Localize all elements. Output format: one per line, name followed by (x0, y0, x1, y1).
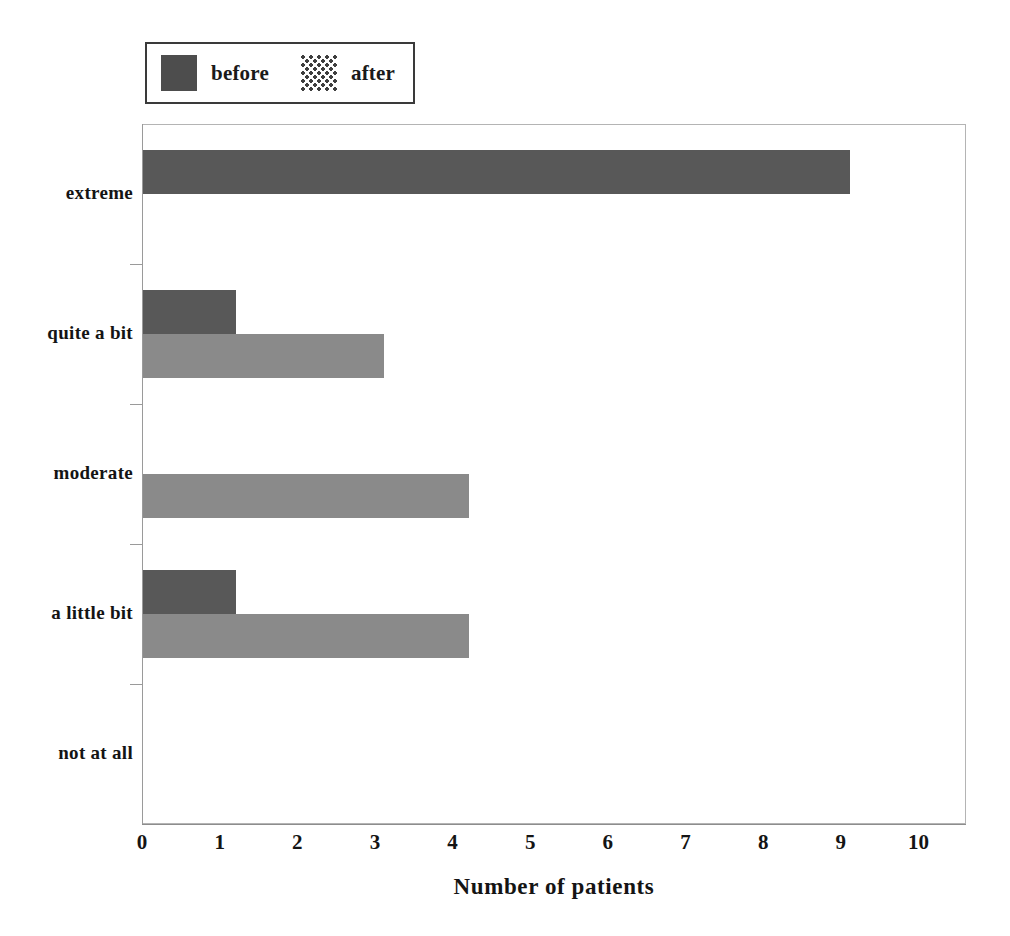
y-axis-tick (130, 404, 143, 405)
x-tick-5: 5 (525, 830, 536, 855)
bar-after (143, 614, 469, 658)
y-axis-label-a-little-bit: a little bit (3, 602, 133, 624)
bar-row (143, 264, 966, 404)
x-tick-9: 9 (836, 830, 847, 855)
x-tick-2: 2 (292, 830, 303, 855)
bar-after (143, 474, 469, 518)
x-axis-tick-labels: 012345678910 (142, 830, 966, 864)
y-axis-tick (130, 684, 143, 685)
y-axis-tick (130, 544, 143, 545)
x-tick-1: 1 (214, 830, 225, 855)
x-tick-7: 7 (680, 830, 691, 855)
bar-chart-figure: before after not at alla little bitmoder… (0, 0, 1010, 936)
bar-before (143, 570, 236, 614)
y-axis-label-quite-a-bit: quite a bit (3, 322, 133, 344)
bar-row (143, 544, 966, 684)
x-tick-3: 3 (370, 830, 381, 855)
legend-swatch-before-icon (161, 55, 197, 91)
bar-before (143, 290, 236, 334)
bar-row (143, 404, 966, 544)
bar-after (143, 334, 384, 378)
x-tick-10: 10 (908, 830, 929, 855)
chart-legend: before after (145, 42, 415, 104)
x-tick-8: 8 (758, 830, 769, 855)
bar-rows (143, 124, 966, 824)
x-tick-4: 4 (447, 830, 458, 855)
y-axis-tick (130, 264, 143, 265)
legend-label-after: after (351, 61, 395, 86)
legend-entry-before: before (161, 55, 269, 91)
x-axis-title: Number of patients (142, 874, 966, 900)
y-axis-label-moderate: moderate (3, 462, 133, 484)
bar-row (143, 684, 966, 824)
legend-swatch-after-icon (301, 55, 337, 91)
legend-entries: before after (147, 44, 413, 102)
y-axis-label-extreme: extreme (3, 182, 133, 204)
y-axis-labels: not at alla little bitmoderatequite a bi… (0, 124, 133, 824)
x-tick-0: 0 (137, 830, 148, 855)
legend-entry-after: after (301, 55, 395, 91)
x-axis-line (142, 824, 966, 825)
bar-row (143, 124, 966, 264)
bar-before (143, 150, 850, 194)
legend-label-before: before (211, 61, 269, 86)
y-axis-label-not-at-all: not at all (3, 742, 133, 764)
x-tick-6: 6 (603, 830, 614, 855)
